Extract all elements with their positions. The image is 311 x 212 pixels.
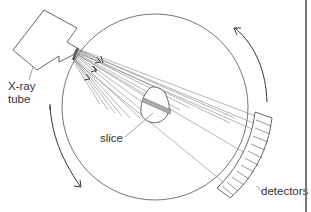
rotation-arrow-bottom-left: [50, 106, 81, 187]
xray-tube-label-line2: tube: [8, 93, 35, 106]
xray-tube-leader: [29, 67, 33, 80]
slice-leader: [125, 113, 153, 137]
right-border-rule: [305, 0, 307, 212]
xray-fan-beam: [73, 48, 258, 190]
rotation-arrow-top-right: [234, 28, 267, 102]
slice-label: slice: [100, 132, 123, 145]
ct-scanner-diagram: [0, 0, 311, 212]
xray-tube: [13, 10, 77, 70]
xray-tube-label: X-ray tube: [8, 80, 35, 106]
xray-tube-label-line1: X-ray: [8, 80, 35, 93]
detectors-label: detectors: [261, 185, 308, 198]
